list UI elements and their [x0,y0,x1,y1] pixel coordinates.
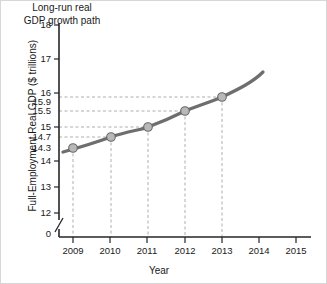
x-tick-label-2009: 2009 [53,246,93,256]
y-tick-label-0: 0 [11,229,51,239]
x-axis-title: Year [119,265,199,276]
y-axis-title: Full-Employment Real GDP ($ trillions) [27,42,38,212]
data-point-2010 [107,133,116,142]
x-tick-label-2013: 2013 [202,246,242,256]
data-point-2012 [181,107,190,116]
chart-screenshot: 18 17 16 15.9 15.5 15 14.7 14.3 14 13 12… [0,0,327,284]
horizontal-reference-lines [59,97,222,137]
data-point-2013 [218,93,227,102]
data-point-2009 [69,144,78,153]
x-tick-label-2014: 2014 [239,246,279,256]
x-tick-label-2012: 2012 [165,246,205,256]
x-tick-label-2015: 2015 [276,246,316,256]
x-tick-label-2010: 2010 [90,246,130,256]
y-tick-label-18: 18 [11,20,51,30]
vertical-drop-lines [73,97,222,237]
data-point-2011 [144,123,153,132]
x-tick-label-2011: 2011 [127,246,167,256]
x-axis-ticks [73,237,296,243]
gdp-growth-path-line [63,72,263,152]
